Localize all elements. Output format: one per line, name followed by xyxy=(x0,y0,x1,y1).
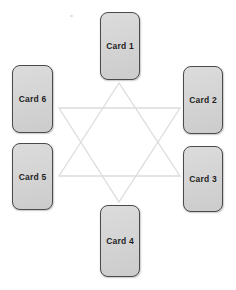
card-label: Card 1 xyxy=(106,41,134,51)
spread-diagram: Card 1 Card 2 Card 3 Card 4 Card 5 Card … xyxy=(0,0,236,290)
card-label: Card 6 xyxy=(19,94,47,104)
down-triangle-outline xyxy=(59,108,180,202)
card-label: Card 2 xyxy=(189,95,217,105)
card-label: Card 4 xyxy=(106,236,134,246)
card-slot-6[interactable]: Card 6 xyxy=(12,65,53,133)
card-slot-4[interactable]: Card 4 xyxy=(100,205,140,277)
up-triangle-outline xyxy=(59,83,180,176)
card-slot-5[interactable]: Card 5 xyxy=(12,143,53,210)
card-slot-2[interactable]: Card 2 xyxy=(183,66,223,134)
card-slot-1[interactable]: Card 1 xyxy=(100,12,140,80)
card-label: Card 5 xyxy=(19,172,47,182)
card-label: Card 3 xyxy=(189,174,217,184)
card-slot-3[interactable]: Card 3 xyxy=(183,146,223,212)
scan-speck xyxy=(70,15,73,17)
